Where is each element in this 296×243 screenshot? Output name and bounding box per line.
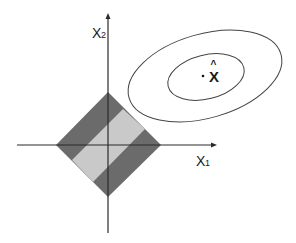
- diagram-svg: X ^ X 2 X 1: [0, 0, 296, 243]
- contour-ellipses: [117, 14, 292, 138]
- inner-contour: [163, 46, 249, 108]
- outer-contour: [117, 14, 292, 138]
- estimate-hat: ^: [211, 59, 217, 70]
- estimate-point: [202, 75, 205, 78]
- y-axis-arrow-icon: [106, 13, 111, 19]
- x-axis-arrow-icon: [211, 143, 217, 148]
- estimate-label: X: [209, 68, 219, 85]
- x-axis-label-subscript: 1: [205, 158, 210, 168]
- diagram-canvas: X ^ X 2 X 1: [0, 0, 296, 243]
- y-axis-label-subscript: 2: [101, 30, 106, 40]
